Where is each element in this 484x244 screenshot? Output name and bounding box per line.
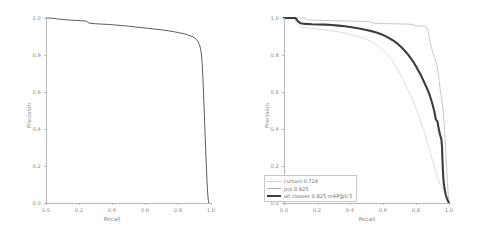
y-tick-label: 0.4 [270,126,279,132]
y-tick-mark [282,129,284,130]
plot-area-left [46,18,211,203]
y-tick-label: 0.8 [32,52,41,58]
y-tick-label: 0.2 [32,163,41,169]
legend-item[interactable]: pot 0.925 [267,186,353,192]
x-tick-mark [178,203,179,205]
legend-item[interactable]: all classes 0.825 mAP@0.5 [267,193,353,199]
y-tick-mark [282,18,284,19]
x-tick-mark [46,203,47,205]
legend-color-swatch [267,181,281,182]
chart-panel-right: 0.00.20.40.60.81.00.00.20.40.60.81.0 Rec… [242,0,484,244]
x-tick-label: 0.2 [75,207,84,213]
x-tick-mark [416,203,417,205]
legend-item-label: curtain 0.724 [284,178,318,184]
x-tick-label: 0.0 [42,207,51,213]
x-axis-label-right: Recall [359,216,376,222]
x-tick-label: 0.8 [174,207,183,213]
x-tick-mark [284,203,285,205]
y-tick-mark [44,166,46,167]
x-tick-label: 1.0 [207,207,216,213]
y-tick-label: 0.0 [32,200,41,206]
legend-item-label: all classes 0.825 mAP@0.5 [284,193,353,199]
y-axis-left [46,18,47,203]
y-tick-mark [282,55,284,56]
x-tick-label: 0.6 [379,207,388,213]
x-tick-label: 0.0 [280,207,289,213]
x-tick-label: 0.6 [141,207,150,213]
y-axis-label-left: Precision [26,103,32,128]
y-tick-label: 0.6 [32,89,41,95]
y-tick-mark [282,92,284,93]
x-axis-right [284,203,449,204]
legend-color-swatch [267,195,281,197]
x-tick-mark [112,203,113,205]
figure-root: 0.00.20.40.60.81.00.00.20.40.60.81.0 Rec… [0,0,484,244]
y-tick-mark [44,203,46,204]
x-tick-label: 1.0 [445,207,454,213]
x-tick-mark [383,203,384,205]
x-tick-label: 0.4 [108,207,117,213]
legend-item[interactable]: curtain 0.724 [267,178,353,184]
x-tick-mark [211,203,212,205]
x-tick-label: 0.2 [313,207,322,213]
x-tick-mark [317,203,318,205]
chart-legend[interactable]: curtain 0.724pot 0.925all classes 0.825 … [264,175,357,202]
y-tick-label: 0.2 [270,163,279,169]
x-tick-mark [350,203,351,205]
y-tick-mark [282,203,284,204]
y-tick-label: 1.0 [270,15,279,21]
x-tick-mark [79,203,80,205]
y-tick-mark [282,166,284,167]
x-tick-mark [145,203,146,205]
x-tick-mark [449,203,450,205]
x-axis-left [46,203,211,204]
x-axis-label-left: Recall [104,216,121,222]
y-tick-mark [44,55,46,56]
y-tick-mark [44,18,46,19]
chart-panel-left: 0.00.20.40.60.81.00.00.20.40.60.81.0 Rec… [0,0,242,244]
legend-item-label: pot 0.925 [284,186,309,192]
y-tick-label: 0.4 [32,126,41,132]
legend-color-swatch [267,188,281,189]
x-tick-label: 0.4 [346,207,355,213]
y-tick-label: 0.8 [270,52,279,58]
y-tick-mark [44,129,46,130]
x-tick-label: 0.8 [412,207,421,213]
y-tick-label: 0.6 [270,89,279,95]
y-axis-label-right: Precision [264,103,270,128]
y-tick-mark [44,92,46,93]
pr-curve-svg-left [46,18,211,203]
series-line [46,18,209,203]
y-tick-label: 1.0 [32,15,41,21]
